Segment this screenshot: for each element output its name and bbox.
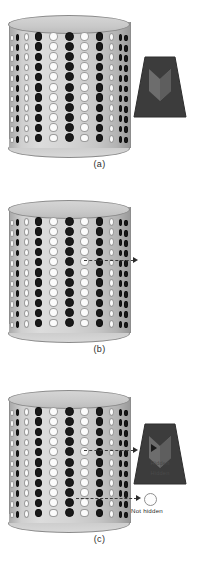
black-dot: [16, 321, 19, 328]
black-dot: [119, 65, 122, 72]
white-dot: [10, 271, 13, 278]
black-dot: [96, 509, 103, 517]
black-dot: [16, 311, 19, 318]
black-dot: [119, 280, 122, 287]
black-dot: [96, 124, 103, 132]
white-dot: [49, 437, 58, 446]
trapezoid-object-a: [132, 55, 188, 121]
black-dot: [16, 270, 19, 277]
white-dot: [10, 481, 13, 488]
black-dot: [35, 63, 42, 71]
black-dot: [124, 116, 127, 123]
cylinder-b: [9, 200, 129, 340]
white-dot: [109, 428, 114, 436]
white-dot: [10, 250, 13, 257]
white-dot: [49, 217, 58, 226]
white-dot: [10, 301, 13, 308]
black-dot: [96, 438, 103, 446]
white-dot: [10, 491, 13, 498]
black-dot: [35, 227, 42, 235]
hidden-leader-line-c: [84, 450, 134, 451]
black-dot: [16, 250, 19, 257]
panel-caption-c: (c): [0, 534, 199, 544]
black-dot: [65, 468, 74, 477]
black-dot: [65, 42, 74, 51]
black-dot: [16, 409, 19, 416]
white-dot: [10, 512, 13, 519]
black-dot: [65, 257, 74, 266]
black-dot: [16, 105, 19, 112]
white-dot: [24, 249, 29, 257]
dot-grid-a: [9, 15, 129, 155]
white-dot: [49, 72, 58, 81]
not-hidden-callout-dot: [144, 493, 157, 506]
white-dot: [109, 238, 114, 246]
white-dot: [80, 278, 89, 287]
black-dot: [35, 93, 42, 101]
hidden-label-c: Hidden: [140, 460, 180, 466]
white-dot: [109, 459, 114, 467]
black-dot: [65, 72, 74, 81]
white-dot: [109, 289, 114, 297]
black-dot: [65, 93, 74, 102]
black-dot: [65, 103, 74, 112]
white-dot: [10, 260, 13, 267]
panel-b: Hidden (b): [0, 182, 199, 372]
white-dot: [49, 478, 58, 487]
black-dot: [16, 440, 19, 447]
white-dot: [80, 458, 89, 467]
black-dot: [35, 289, 42, 297]
black-dot: [124, 65, 127, 72]
black-dot: [124, 45, 127, 52]
black-dot: [119, 409, 122, 416]
white-dot: [109, 500, 114, 508]
panel-caption-b: (b): [0, 344, 199, 354]
black-dot: [124, 240, 127, 247]
black-dot: [124, 481, 127, 488]
white-dot: [10, 45, 13, 52]
black-dot: [65, 498, 74, 507]
white-dot: [10, 86, 13, 93]
white-dot: [49, 488, 58, 497]
white-dot: [109, 510, 114, 518]
black-dot: [124, 260, 127, 267]
black-dot: [119, 300, 122, 307]
white-dot: [49, 52, 58, 61]
black-dot: [124, 126, 127, 133]
white-dot: [24, 449, 29, 457]
black-dot: [35, 458, 42, 466]
black-dot: [124, 410, 127, 417]
white-dot: [109, 249, 114, 257]
black-dot: [119, 75, 122, 82]
white-dot: [49, 319, 58, 328]
white-dot: [80, 42, 89, 51]
white-dot: [24, 125, 29, 133]
black-dot: [35, 428, 42, 436]
black-dot: [35, 499, 42, 507]
black-dot: [35, 489, 42, 497]
white-dot: [80, 427, 89, 436]
black-dot: [35, 278, 42, 286]
black-dot: [65, 447, 74, 456]
black-dot: [119, 440, 122, 447]
white-dot: [24, 135, 29, 143]
white-dot: [49, 407, 58, 416]
black-dot: [124, 450, 127, 457]
hidden-label-b: Hidden: [140, 470, 180, 476]
white-dot: [109, 218, 114, 226]
black-dot: [65, 407, 74, 416]
white-dot: [24, 289, 29, 297]
black-dot: [119, 270, 122, 277]
white-dot: [109, 299, 114, 307]
black-dot: [65, 458, 74, 467]
white-dot: [10, 126, 13, 133]
panel-c: Hidden Not hidden (c): [0, 372, 199, 562]
black-dot: [124, 230, 127, 237]
black-dot: [16, 239, 19, 246]
white-dot: [24, 33, 29, 41]
black-dot: [96, 278, 103, 286]
white-dot: [24, 489, 29, 497]
black-dot: [96, 248, 103, 256]
white-dot: [49, 298, 58, 307]
white-dot: [10, 35, 13, 42]
